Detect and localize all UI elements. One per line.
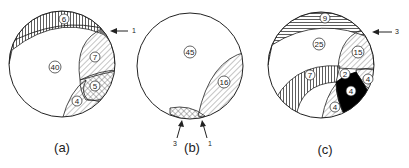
- label-c-2: 2: [343, 70, 348, 79]
- label-a-7: 7: [93, 53, 98, 62]
- label-a-6: 6: [62, 15, 67, 24]
- label-b-45: 45: [186, 48, 195, 57]
- panel-a: 6 40 7 5 4 1 (a): [5, 11, 136, 155]
- label-c-15: 15: [354, 48, 363, 57]
- label-c-25: 25: [315, 40, 324, 49]
- region-b-16: [198, 52, 250, 130]
- arrow-b-3: 3: [173, 120, 184, 147]
- panel-c: 9 25 15 7 2 4 4 4 3 (c): [268, 12, 399, 157]
- label-c-7: 7: [308, 71, 313, 80]
- label-c-4-lower: 4: [333, 103, 338, 112]
- panel-b: 45 16 3 1 (b): [137, 13, 250, 155]
- figure: 6 40 7 5 4 1 (a) 45 16 3: [0, 0, 409, 168]
- label-c-9: 9: [323, 14, 328, 23]
- label-c-4-right: 4: [366, 75, 371, 84]
- label-a-4: 4: [75, 97, 80, 106]
- svg-text:3: 3: [173, 140, 177, 147]
- label-b-16: 16: [220, 78, 229, 87]
- caption-a: (a): [54, 140, 70, 155]
- svg-text:1: 1: [132, 27, 136, 34]
- arrow-a-1: 1: [110, 27, 136, 34]
- arrow-b-1: 1: [200, 120, 212, 147]
- caption-c: (c): [317, 142, 332, 157]
- label-a-40: 40: [51, 63, 60, 72]
- label-a-5: 5: [93, 82, 98, 91]
- caption-b: (b): [184, 140, 200, 155]
- svg-text:3: 3: [395, 28, 399, 35]
- svg-text:1: 1: [208, 140, 212, 147]
- arrow-c-3: 3: [372, 28, 399, 35]
- label-c-4-black: 4: [349, 87, 354, 96]
